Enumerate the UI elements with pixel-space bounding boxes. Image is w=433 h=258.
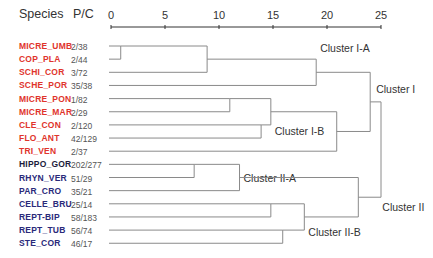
x-axis-tick-label: 20	[321, 9, 333, 21]
x-axis-tick-label: 5	[162, 9, 168, 21]
x-axis-tick-label: 10	[213, 9, 225, 21]
x-axis-tick-label: 15	[267, 9, 279, 21]
x-axis-tick-label: 25	[375, 9, 387, 21]
dendrogram-figure: Species P/C MICRE_UMB2/38COP_PLA2/44SCHI…	[0, 0, 433, 258]
x-axis-tick-label: 0	[108, 9, 114, 21]
dendrogram-svg: 0510152025	[0, 0, 433, 258]
